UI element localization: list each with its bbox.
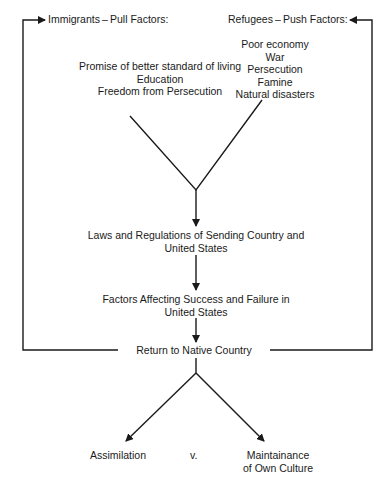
success-line: United States [60,306,332,319]
assimilation-node: Assimilation [90,449,146,462]
refugees-title: Refugees – Push Factors: [228,13,348,26]
success-line: Factors Affecting Success and Failure in [60,293,332,306]
factor-item: War [210,51,340,64]
success-node: Factors Affecting Success and Failure in… [60,293,332,318]
factor-item: Poor economy [210,38,340,51]
factor-item: Persecution [210,63,340,76]
maintenance-line: of Own Culture [228,462,328,475]
refugees-factors: Poor economy War Persecution Famine Natu… [210,38,340,101]
factor-item: Famine [210,76,340,89]
arrow-to-assimilation [126,373,196,441]
versus-label: v. [190,449,197,462]
laws-node: Laws and Regulations of Sending Country … [60,229,332,254]
maintenance-node: Maintainance of Own Culture [228,449,328,474]
laws-line: United States [60,242,332,255]
merge-lines [130,100,262,190]
maintenance-line: Maintainance [228,449,328,462]
immigrants-title: Immigrants – Pull Factors: [48,13,168,26]
return-node: Return to Native Country [118,344,270,357]
arrow-to-maintenance [196,373,264,441]
laws-line: Laws and Regulations of Sending Country … [60,229,332,242]
factor-item: Natural disasters [210,88,340,101]
